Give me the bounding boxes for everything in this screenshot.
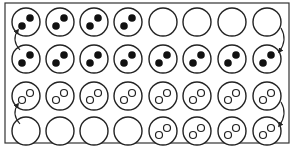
circle-filled (114, 45, 142, 73)
black-dot (94, 14, 102, 22)
circle-open (114, 82, 142, 110)
circle-open (80, 82, 108, 110)
circle-grid (12, 8, 281, 145)
open-dot (233, 125, 240, 132)
diagram-canvas (0, 0, 295, 147)
black-dot (18, 59, 26, 67)
circle-filled (12, 8, 40, 36)
open-dot (95, 90, 102, 97)
black-dot (189, 59, 197, 67)
black-dot (155, 59, 163, 67)
circle-filled (114, 8, 142, 36)
circle-open (12, 82, 40, 110)
circle-open (218, 82, 246, 110)
black-dot (120, 22, 128, 30)
open-dot (190, 97, 197, 104)
circle-empty (183, 8, 211, 36)
circle-empty (46, 117, 74, 145)
arrows-group (15, 28, 284, 126)
open-dot (121, 97, 128, 104)
black-dot (267, 51, 275, 59)
black-dot (120, 59, 128, 67)
open-dot (198, 125, 205, 132)
circle-open (253, 82, 281, 110)
circle-open (183, 117, 211, 145)
black-dot (128, 51, 136, 59)
black-dot (52, 59, 60, 67)
circle-filled (12, 45, 40, 73)
black-dot (197, 51, 205, 59)
circle-open (46, 82, 74, 110)
open-dot (198, 90, 205, 97)
circle-empty (149, 8, 177, 36)
black-dot (94, 51, 102, 59)
open-dot (225, 132, 232, 139)
black-dot (259, 59, 267, 67)
black-dot (224, 59, 232, 67)
open-dot (260, 97, 267, 104)
open-dot (233, 90, 240, 97)
circle-filled (80, 8, 108, 36)
open-dot (164, 125, 171, 132)
circle-empty (253, 8, 281, 36)
circle-empty (218, 8, 246, 36)
open-dot (61, 90, 68, 97)
black-dot (26, 51, 34, 59)
circle-empty (12, 117, 40, 145)
open-dot (190, 132, 197, 139)
circle-filled (46, 8, 74, 36)
black-dot (232, 51, 240, 59)
open-dot (129, 90, 136, 97)
circle-filled (149, 45, 177, 73)
open-dot (164, 90, 171, 97)
black-dot (60, 51, 68, 59)
arrow-right-bottom-icon (279, 102, 284, 126)
circle-open (183, 82, 211, 110)
arrow-right-top-icon (279, 28, 284, 52)
black-dot (86, 59, 94, 67)
circle-open (218, 117, 246, 145)
black-dot (86, 22, 94, 30)
open-dot (225, 97, 232, 104)
black-dot (26, 14, 34, 22)
circle-empty (114, 117, 142, 145)
circle-filled (218, 45, 246, 73)
circle-open (149, 82, 177, 110)
open-dot (260, 132, 267, 139)
circle-open (149, 117, 177, 145)
circle-filled (253, 45, 281, 73)
circle-filled (80, 45, 108, 73)
open-dot (27, 90, 34, 97)
circle-open (253, 117, 281, 145)
open-dot (156, 132, 163, 139)
dot-grid-diagram (0, 0, 295, 147)
black-dot (128, 14, 136, 22)
open-dot (19, 97, 26, 104)
open-dot (53, 97, 60, 104)
open-dot (87, 97, 94, 104)
black-dot (60, 14, 68, 22)
circle-filled (46, 45, 74, 73)
black-dot (18, 22, 26, 30)
open-dot (268, 125, 275, 132)
black-dot (163, 51, 171, 59)
open-dot (156, 97, 163, 104)
circle-filled (183, 45, 211, 73)
open-dot (268, 90, 275, 97)
circle-empty (80, 117, 108, 145)
black-dot (52, 22, 60, 30)
